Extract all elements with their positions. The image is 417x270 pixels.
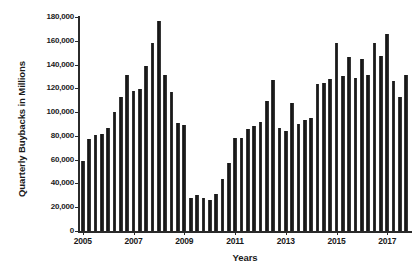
bar [170, 92, 174, 231]
x-tick-mark [286, 232, 287, 235]
bar [404, 75, 408, 231]
bar [246, 129, 250, 231]
y-axis-tick-labels: 020,00040,00060,00080,000100,000120,0001… [22, 0, 74, 270]
bar [195, 195, 199, 231]
bar [214, 194, 218, 231]
x-axis-title: Years [78, 252, 412, 263]
bar [151, 43, 155, 231]
bar [316, 84, 320, 231]
y-tick-label: 0 [22, 227, 74, 235]
bar [119, 97, 123, 231]
bar [379, 56, 383, 231]
quarterly-buybacks-bar-chart: Quarterly Buybacks in Millions 020,00040… [0, 0, 417, 270]
bar [87, 139, 91, 231]
bar-series [78, 17, 411, 231]
bar [360, 59, 364, 231]
bar [144, 66, 148, 231]
bar [240, 138, 244, 231]
x-tick-mark [337, 232, 338, 235]
y-tick-label: 20,000 [22, 203, 74, 211]
bar [176, 123, 180, 231]
bar [81, 161, 85, 231]
bar [398, 97, 402, 231]
bar [125, 75, 129, 231]
bar [341, 76, 345, 231]
x-tick-mark [235, 232, 236, 235]
bar [284, 131, 288, 231]
x-axis-line [78, 231, 412, 233]
bar [94, 135, 98, 231]
bar [303, 120, 307, 231]
bar [322, 83, 326, 231]
bar [265, 101, 269, 231]
bar [297, 124, 301, 231]
bar [290, 103, 294, 231]
y-tick-label: 80,000 [22, 132, 74, 140]
y-tick-label: 60,000 [22, 156, 74, 164]
bar [233, 138, 237, 231]
x-tick-label: 2017 [367, 236, 407, 247]
bar [138, 89, 142, 231]
bar [221, 179, 225, 231]
bar [252, 126, 256, 231]
bar [132, 91, 136, 231]
x-tick-label: 2009 [164, 236, 204, 247]
bar [113, 112, 117, 231]
bar [157, 21, 161, 231]
x-tick-label: 2011 [215, 236, 255, 247]
bar [354, 78, 358, 231]
x-tick-mark [184, 232, 185, 235]
bar [259, 122, 263, 231]
bar [328, 79, 332, 231]
bar [208, 200, 212, 232]
x-tick-mark [134, 232, 135, 235]
bar [385, 34, 389, 231]
y-tick-label: 40,000 [22, 179, 74, 187]
y-tick-label: 160,000 [22, 37, 74, 45]
x-tick-label: 2013 [266, 236, 306, 247]
x-tick-mark [83, 232, 84, 235]
bar [100, 134, 104, 231]
x-tick-label: 2005 [63, 236, 103, 247]
bar [106, 128, 110, 231]
bar [392, 81, 396, 231]
bar [163, 75, 167, 231]
bar [347, 57, 351, 231]
y-tick-label: 140,000 [22, 61, 74, 69]
bar [278, 128, 282, 231]
bar [227, 163, 231, 231]
bar [373, 43, 377, 231]
x-tick-mark [387, 232, 388, 235]
bar [366, 75, 370, 231]
bar [202, 198, 206, 231]
y-tick-label: 120,000 [22, 84, 74, 92]
bar [189, 198, 193, 231]
x-axis-tick-labels: 2005200720092011201320152017 [0, 236, 417, 250]
y-tick-label: 180,000 [22, 13, 74, 21]
bar [309, 118, 313, 231]
x-tick-label: 2015 [317, 236, 357, 247]
bar [335, 43, 339, 231]
bar [271, 80, 275, 231]
x-tick-label: 2007 [114, 236, 154, 247]
plot-area [78, 17, 411, 231]
bar [182, 125, 186, 231]
y-tick-label: 100,000 [22, 108, 74, 116]
